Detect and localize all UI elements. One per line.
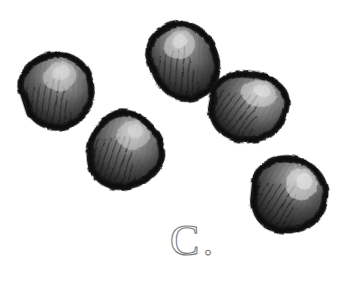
seed-illustration-canvas: C . [0,0,346,281]
illustration-plate: C . [0,0,346,281]
